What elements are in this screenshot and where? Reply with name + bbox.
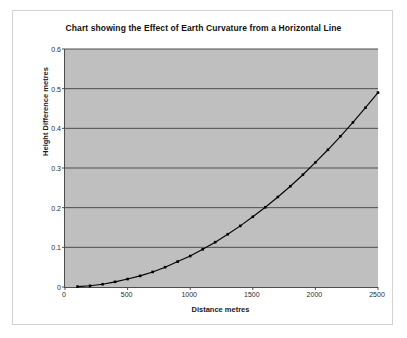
x-tick-label: 2500 [369, 291, 385, 298]
data-point-marker [89, 285, 92, 288]
y-tick-label: 0.1 [35, 244, 61, 251]
x-tick-label: 1000 [181, 291, 197, 298]
x-tick-label: 0 [62, 291, 66, 298]
data-point-marker [189, 255, 192, 258]
x-tick-label: 2000 [307, 291, 323, 298]
data-point-marker [289, 185, 292, 188]
data-point-marker [277, 196, 280, 199]
data-point-marker [302, 173, 305, 176]
data-point-marker [252, 215, 255, 218]
series-line-earth-curvature [78, 93, 378, 287]
y-tick-label: 0.6 [35, 46, 61, 53]
data-point-marker [264, 206, 267, 209]
y-tick-label: 0.5 [35, 85, 61, 92]
x-tick-label: 500 [121, 291, 133, 298]
data-point-marker [101, 283, 104, 286]
y-axis-ticks [62, 49, 65, 287]
data-point-marker [139, 275, 142, 278]
y-tick-label: 0 [35, 284, 61, 291]
x-tick-label: 1500 [244, 291, 260, 298]
data-point-marker [76, 285, 79, 288]
gridlines [65, 49, 378, 247]
data-point-marker [377, 91, 380, 94]
y-tick-label: 0.3 [35, 165, 61, 172]
data-point-marker [151, 271, 154, 274]
data-point-marker [327, 148, 330, 151]
data-point-marker [126, 278, 129, 281]
data-point-marker [201, 248, 204, 251]
x-axis-ticks [65, 287, 378, 290]
data-point-marker [176, 260, 179, 263]
x-axis-tick-labels: 05001000150020002500 [64, 291, 377, 303]
plot-area [64, 49, 378, 288]
data-point-marker [214, 241, 217, 244]
chart-title: Chart showing the Effect of Earth Curvat… [13, 23, 394, 33]
data-point-marker [364, 106, 367, 109]
chart-canvas [65, 49, 378, 287]
data-point-marker [164, 266, 167, 269]
data-point-marker [226, 233, 229, 236]
y-tick-label: 0.4 [35, 125, 61, 132]
y-tick-label: 0.2 [35, 204, 61, 211]
chart-panel: Chart showing the Effect of Earth Curvat… [12, 10, 393, 325]
data-point-marker [239, 225, 242, 228]
y-axis-tick-labels: 00.10.20.30.40.50.6 [33, 49, 61, 287]
series-markers [76, 91, 379, 288]
data-point-marker [114, 281, 117, 284]
data-point-marker [352, 121, 355, 124]
data-point-marker [339, 135, 342, 138]
x-axis-title: Distance metres [64, 305, 377, 314]
data-point-marker [314, 161, 317, 164]
